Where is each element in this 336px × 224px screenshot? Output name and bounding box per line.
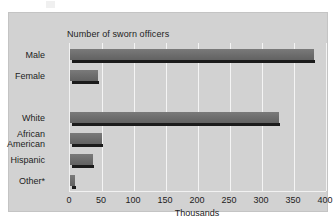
- category-label-male: Male: [0, 50, 45, 60]
- category-label-hispanic: Hispanic: [0, 155, 45, 165]
- category-label-african-american: African American: [0, 129, 45, 149]
- category-label-white: White: [0, 113, 45, 123]
- bar-row: [70, 70, 98, 84]
- bar-row: [70, 175, 75, 189]
- bar-row: [70, 49, 314, 63]
- bar-hispanic: [70, 154, 93, 165]
- x-tick-400: 400: [310, 195, 336, 205]
- gridline-350: [294, 43, 295, 191]
- plot-area: [69, 43, 326, 192]
- bar-shadow: [72, 60, 315, 63]
- bar-row: [70, 154, 93, 168]
- bar-shadow: [72, 123, 280, 126]
- chart-title: Number of sworn officers: [67, 29, 169, 39]
- x-tick-150: 150: [150, 195, 180, 205]
- x-tick-200: 200: [182, 195, 212, 205]
- x-tick-50: 50: [86, 195, 116, 205]
- category-label-other: Other*: [0, 176, 45, 186]
- bar-female: [70, 70, 98, 81]
- chart-panel: Number of sworn officers MaleFemaleWhite…: [8, 12, 328, 212]
- bar-other: [70, 175, 75, 186]
- x-tick-0: 0: [54, 195, 84, 205]
- gridline-400: [326, 43, 327, 191]
- x-tick-300: 300: [246, 195, 276, 205]
- x-tick-100: 100: [118, 195, 148, 205]
- bar-african-american: [70, 133, 102, 144]
- bar-shadow: [72, 165, 94, 168]
- x-tick-250: 250: [214, 195, 244, 205]
- bar-chart-figure: Number of sworn officers MaleFemaleWhite…: [0, 0, 336, 224]
- bar-row: [70, 112, 279, 126]
- bar-row: [70, 133, 102, 147]
- x-tick-350: 350: [278, 195, 308, 205]
- bar-shadow: [72, 186, 76, 189]
- bar-shadow: [72, 81, 99, 84]
- scan-artifact: [46, 1, 55, 8]
- x-axis-title: Thousands: [69, 208, 325, 218]
- category-label-female: Female: [0, 71, 45, 81]
- bar-white: [70, 112, 279, 123]
- bar-shadow: [72, 144, 103, 147]
- bar-male: [70, 49, 314, 60]
